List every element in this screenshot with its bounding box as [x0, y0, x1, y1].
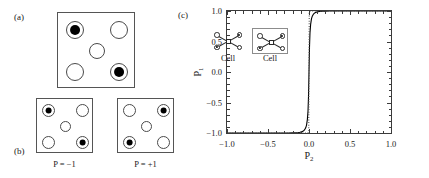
- y-tick-label: −1.0: [207, 129, 222, 138]
- qca-dot-bottom-left-open: [42, 136, 55, 149]
- x-minor-tick: [358, 131, 359, 134]
- qca-dot-bottom-right-filled: [110, 63, 128, 81]
- x-minor-tick: [260, 131, 261, 134]
- x-minor-tick: [375, 131, 376, 134]
- x-minor-tick: [342, 131, 343, 134]
- x-minor-tick: [260, 11, 261, 14]
- y-major-tick: [227, 72, 231, 73]
- qca-dot-bottom-right-filled: [76, 136, 89, 149]
- qca-dot-bottom-left-filled: [123, 136, 136, 149]
- response-function-chart: −1.0−0.50.00.51.0 −1.0−0.50.00.51.0 P2 P…: [196, 4, 425, 176]
- y-minor-tick: [227, 17, 230, 18]
- x-minor-tick: [293, 11, 294, 14]
- x-minor-tick: [243, 11, 244, 14]
- x-tick-label: −1.0: [219, 140, 234, 149]
- x-major-tick: [309, 129, 310, 133]
- y-minor-tick: [227, 23, 230, 24]
- y-minor-tick: [389, 60, 392, 61]
- inset-dot-top-right-filled: [237, 32, 243, 38]
- x-tick-label: 1.0: [386, 140, 397, 149]
- x-major-tick: [309, 11, 310, 15]
- x-minor-tick: [334, 11, 335, 14]
- y-tick-label: −0.5: [207, 98, 222, 107]
- x-major-tick: [350, 11, 351, 15]
- inset-dot-bottom-right-open: [280, 46, 286, 52]
- y-minor-tick: [227, 121, 230, 122]
- x-minor-tick: [383, 11, 384, 14]
- y-major-tick: [387, 42, 391, 43]
- y-minor-tick: [389, 84, 392, 85]
- y-minor-tick: [389, 121, 392, 122]
- inset-center-dot: [226, 39, 231, 44]
- inset-center-dot: [269, 40, 274, 45]
- inset-dot-top-right-filled: [280, 33, 286, 39]
- inset-cell-driver: [210, 28, 246, 54]
- panel-b-label: (b): [14, 146, 25, 156]
- y-major-tick: [387, 133, 391, 134]
- x-minor-tick: [235, 11, 236, 14]
- x-tick-label: 0.0: [304, 140, 315, 149]
- chart-inset-cells: Cell Cell: [210, 28, 292, 64]
- y-minor-tick: [389, 78, 392, 79]
- x-minor-tick: [252, 131, 253, 134]
- y-axis-title: P1: [192, 68, 204, 77]
- y-major-tick: [387, 72, 391, 73]
- y-minor-tick: [389, 54, 392, 55]
- qca-dot-top-left-filled: [42, 104, 55, 117]
- x-minor-tick: [276, 131, 277, 134]
- inset-dot-bottom-right-open: [237, 45, 243, 51]
- qca-dot-top-left-filled: [66, 21, 84, 39]
- x-major-tick: [227, 129, 228, 133]
- inset-dot-top-left-open: [257, 33, 263, 39]
- qca-dot-bottom-left-open: [66, 63, 84, 81]
- x-major-tick: [268, 11, 269, 15]
- qca-dot-top-right-open: [110, 21, 128, 39]
- x-axis-title: P2: [305, 150, 314, 162]
- figure-root: (a) (b) P = −1 P = +1 (c) −1.0−0.50.00.5…: [0, 0, 429, 178]
- x-major-tick: [350, 129, 351, 133]
- x-minor-tick: [276, 11, 277, 14]
- x-minor-tick: [293, 131, 294, 134]
- inset-cell-driven-label: Cell: [252, 54, 288, 63]
- x-minor-tick: [334, 131, 335, 134]
- x-minor-tick: [358, 11, 359, 14]
- y-minor-tick: [389, 35, 392, 36]
- x-minor-tick: [375, 11, 376, 14]
- y-major-tick: [387, 103, 391, 104]
- x-minor-tick: [235, 131, 236, 134]
- x-minor-tick: [284, 11, 285, 14]
- inset-cell-driver-label: Cell: [210, 54, 246, 63]
- y-major-tick: [227, 103, 231, 104]
- x-minor-tick: [284, 131, 285, 134]
- qca-dot-center-open: [60, 121, 71, 132]
- x-minor-tick: [366, 131, 367, 134]
- panel-b-cell-plus: [117, 98, 174, 153]
- y-minor-tick: [389, 127, 392, 128]
- inset-cell-driven: [252, 28, 288, 54]
- y-minor-tick: [227, 115, 230, 116]
- inset-dot-bottom-left-filled: [214, 45, 220, 51]
- x-minor-tick: [301, 11, 302, 14]
- y-minor-tick: [227, 84, 230, 85]
- y-minor-tick: [389, 29, 392, 30]
- x-minor-tick: [383, 131, 384, 134]
- panel-a-label: (a): [14, 12, 24, 22]
- y-minor-tick: [227, 96, 230, 97]
- qca-dot-bottom-right-open: [157, 136, 170, 149]
- panel-b-cell-minus: [36, 98, 93, 153]
- y-minor-tick: [227, 78, 230, 79]
- y-minor-tick: [389, 66, 392, 67]
- x-tick-label: −0.5: [260, 140, 275, 149]
- x-minor-tick: [366, 11, 367, 14]
- x-minor-tick: [243, 131, 244, 134]
- x-minor-tick: [317, 131, 318, 134]
- y-minor-tick: [227, 90, 230, 91]
- y-tick-label: 0.0: [211, 68, 222, 77]
- qca-dot-top-left-open: [123, 104, 136, 117]
- x-axis-title-text: P2: [305, 150, 314, 161]
- y-tick-label: 1.0: [211, 7, 222, 16]
- y-minor-tick: [389, 90, 392, 91]
- y-minor-tick: [227, 127, 230, 128]
- x-tick-label: 0.5: [345, 140, 356, 149]
- y-minor-tick: [389, 115, 392, 116]
